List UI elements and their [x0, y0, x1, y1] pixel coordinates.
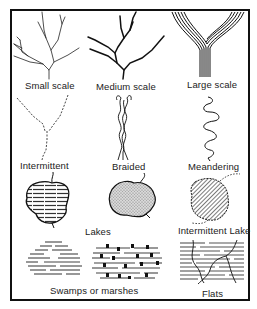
label-large-scale: Large scale: [187, 79, 237, 90]
label-braided: Braided: [112, 161, 145, 172]
braided-symbol: [116, 96, 131, 160]
intermittent-symbol: [17, 95, 68, 160]
medium-scale-symbol: [88, 12, 164, 79]
drainage-symbols-diagram: [0, 0, 257, 309]
flats-symbol: [180, 243, 244, 279]
lake-stippled-symbol: [109, 173, 155, 218]
swamp-dashes-symbol: [26, 242, 82, 274]
label-flats: Flats: [202, 288, 223, 299]
label-medium-scale: Medium scale: [96, 81, 156, 92]
label-intermittent-lake: Intermittent Lake: [178, 225, 250, 236]
label-swamps: Swamps or marshes: [50, 285, 138, 296]
label-meandering: Meandering: [188, 161, 239, 172]
large-scale-symbol: [172, 12, 244, 77]
marsh-tufts-symbol: [92, 248, 162, 278]
meandering-symbol: [204, 97, 219, 161]
lake-lined-symbol: [26, 172, 69, 228]
label-lakes: Lakes: [85, 226, 111, 237]
intermittent-lake-symbol: [191, 174, 240, 224]
small-scale-symbol: [14, 12, 79, 79]
label-intermittent: Intermittent: [20, 160, 69, 171]
label-small-scale: Small scale: [25, 80, 75, 91]
marsh-tuft-marks: [100, 244, 159, 279]
